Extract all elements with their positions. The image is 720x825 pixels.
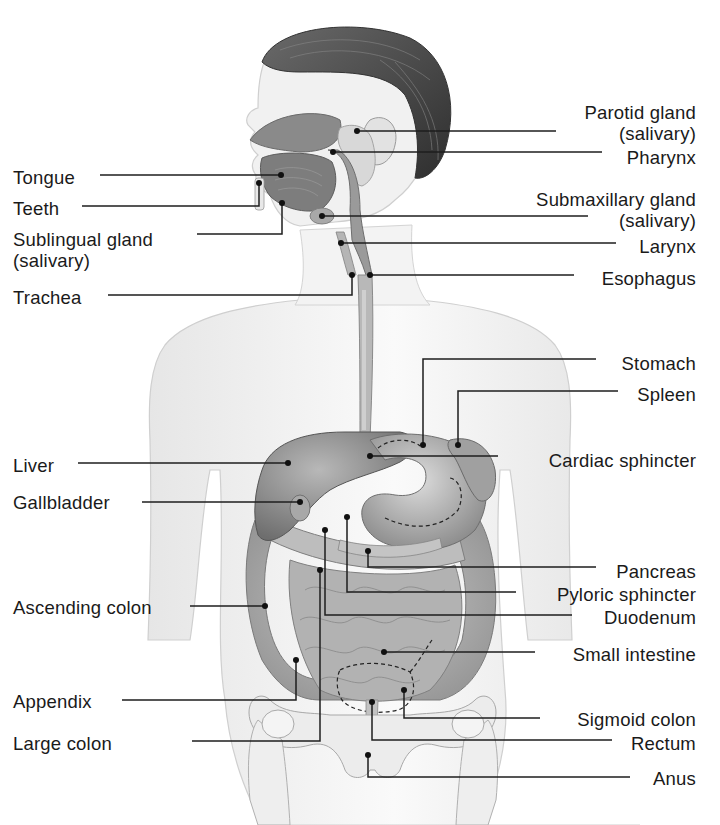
label-sublingual-gland: Sublingual gland (salivary) xyxy=(13,229,153,271)
label-ascending-colon: Ascending colon xyxy=(13,597,152,618)
label-text: Small intestine xyxy=(573,644,696,665)
label-anus: Anus xyxy=(653,768,696,789)
label-text: Pharynx xyxy=(627,147,696,168)
label-text: Stomach xyxy=(622,353,696,374)
label-text: Pancreas xyxy=(616,561,696,582)
label-text: Sublingual gland xyxy=(13,229,153,250)
label-gallbladder: Gallbladder xyxy=(13,492,110,513)
label-text: Ascending colon xyxy=(13,597,152,618)
label-text: Pyloric sphincter xyxy=(557,584,696,605)
label-duodenum: Duodenum xyxy=(604,607,696,628)
label-text: Teeth xyxy=(13,198,59,219)
esophagus-tube xyxy=(358,275,373,440)
label-pharynx: Pharynx xyxy=(627,147,696,168)
label-trachea: Trachea xyxy=(13,287,82,308)
label-cardiac-sphincter: Cardiac sphincter xyxy=(549,450,696,471)
label-text: Large colon xyxy=(13,733,112,754)
label-text: Tongue xyxy=(13,167,75,188)
label-text: Gallbladder xyxy=(13,492,110,513)
label-liver: Liver xyxy=(13,455,54,476)
label-text: Submaxillary gland xyxy=(536,189,696,210)
label-text: Esophagus xyxy=(602,268,696,289)
label-text: Appendix xyxy=(13,691,92,712)
label-sigmoid-colon: Sigmoid colon xyxy=(577,709,696,730)
label-text: (salivary) xyxy=(13,250,153,271)
label-text: Cardiac sphincter xyxy=(549,450,696,471)
label-text: Spleen xyxy=(637,384,696,405)
label-teeth: Teeth xyxy=(13,198,59,219)
label-text: Larynx xyxy=(639,236,696,257)
label-text: Anus xyxy=(653,768,696,789)
label-text: (salivary) xyxy=(584,123,696,144)
label-large-colon: Large colon xyxy=(13,733,112,754)
label-text: Liver xyxy=(13,455,54,476)
label-esophagus: Esophagus xyxy=(602,268,696,289)
label-larynx: Larynx xyxy=(639,236,696,257)
leader-sublingual xyxy=(197,203,282,234)
label-submaxillary-gland: Submaxillary gland (salivary) xyxy=(536,189,696,231)
label-text: Sigmoid colon xyxy=(577,709,696,730)
label-text: Trachea xyxy=(13,287,82,308)
digestive-system-diagram: Tongue Teeth Sublingual gland (salivary)… xyxy=(0,0,720,825)
body-silhouette xyxy=(148,27,640,825)
leader-teeth xyxy=(82,183,259,206)
label-appendix: Appendix xyxy=(13,691,92,712)
label-small-intestine: Small intestine xyxy=(573,644,696,665)
label-text: Duodenum xyxy=(604,607,696,628)
label-pancreas: Pancreas xyxy=(616,561,696,582)
label-text: (salivary) xyxy=(536,210,696,231)
label-pyloric-sphincter: Pyloric sphincter xyxy=(557,584,696,605)
label-parotid-gland: Parotid gland (salivary) xyxy=(584,102,696,144)
label-text: Parotid gland xyxy=(584,102,696,123)
label-stomach: Stomach xyxy=(622,353,696,374)
label-spleen: Spleen xyxy=(637,384,696,405)
label-rectum: Rectum xyxy=(631,733,696,754)
label-text: Rectum xyxy=(631,733,696,754)
label-tongue: Tongue xyxy=(13,167,75,188)
